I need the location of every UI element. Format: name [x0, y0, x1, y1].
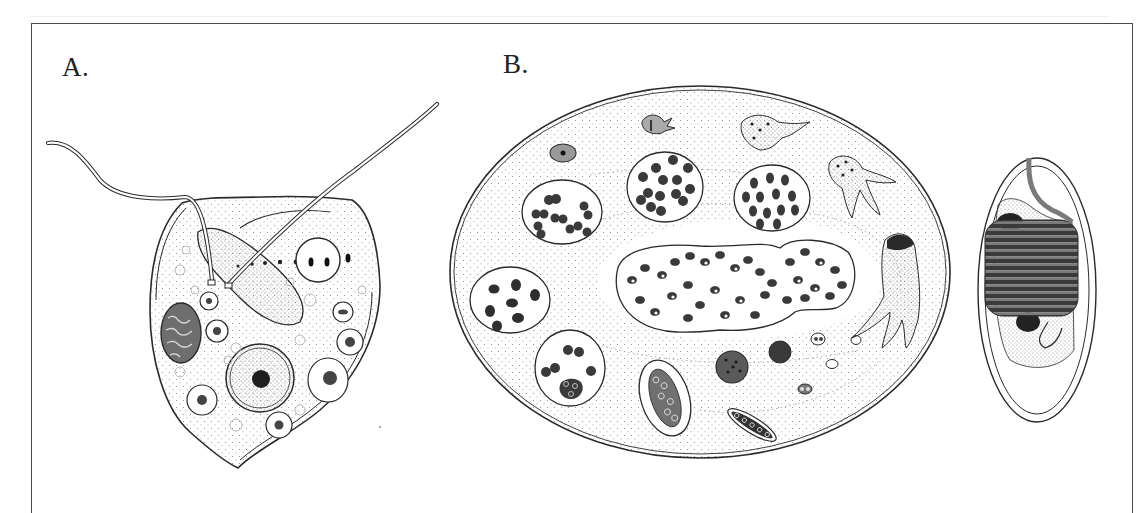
cyst-b — [450, 86, 950, 458]
cell-a — [48, 104, 437, 468]
egg-c-coiled-larva — [985, 220, 1078, 316]
egg-c — [978, 158, 1096, 422]
cell-a-nucleolus — [252, 370, 270, 388]
cell-a-striated-body — [161, 303, 201, 363]
cell-a-contractile-vacuole — [296, 238, 340, 282]
cyst-b-dark-sphere — [769, 341, 791, 363]
